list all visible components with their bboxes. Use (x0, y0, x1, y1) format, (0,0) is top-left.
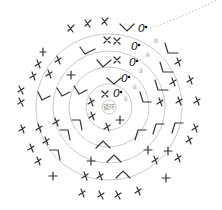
svg-text:0: 0 (121, 72, 128, 85)
svg-text:③: ③ (138, 67, 143, 74)
svg-text:④: ④ (145, 51, 150, 58)
svg-text:0: 0 (113, 87, 120, 100)
crochet-chart: 锁环 0 0 0 0 0 ⑤ ④ ③ ② ① (0, 0, 222, 210)
svg-text:0: 0 (131, 40, 138, 53)
svg-text:0: 0 (138, 22, 145, 35)
center-label: 锁环 (103, 103, 115, 111)
svg-text:①: ① (123, 95, 128, 102)
yarn-tail (150, 0, 218, 28)
crochet-diagram: 锁环 0 0 0 0 0 ⑤ ④ ③ ② ① (0, 0, 222, 210)
svg-text:⑤: ⑤ (153, 37, 158, 44)
svg-text:②: ② (132, 83, 137, 90)
svg-text:0: 0 (129, 56, 136, 69)
